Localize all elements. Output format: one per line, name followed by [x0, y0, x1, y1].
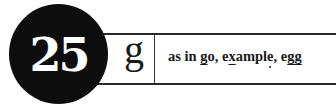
- phonics-letter: g: [114, 30, 154, 70]
- separator: ,: [274, 48, 281, 64]
- example-word-egg: egg: [281, 48, 302, 64]
- example-words: as in go, example, egg: [168, 48, 302, 65]
- example-prefix: as in: [168, 48, 200, 64]
- lesson-number-badge: 25: [9, 4, 108, 104]
- highlighted-letter: x: [228, 48, 235, 64]
- example-word-example: example: [222, 48, 274, 64]
- highlighted-letter: gg: [287, 48, 302, 64]
- lesson-number: 25: [29, 32, 87, 78]
- highlighted-letter: g: [200, 48, 207, 64]
- word-part: ampl: [236, 48, 267, 64]
- example-word-go: go: [200, 48, 215, 64]
- word-part: o: [208, 48, 215, 64]
- silent-letter-dot: e: [267, 48, 273, 64]
- separator: ,: [215, 48, 222, 64]
- column-divider: [154, 35, 155, 83]
